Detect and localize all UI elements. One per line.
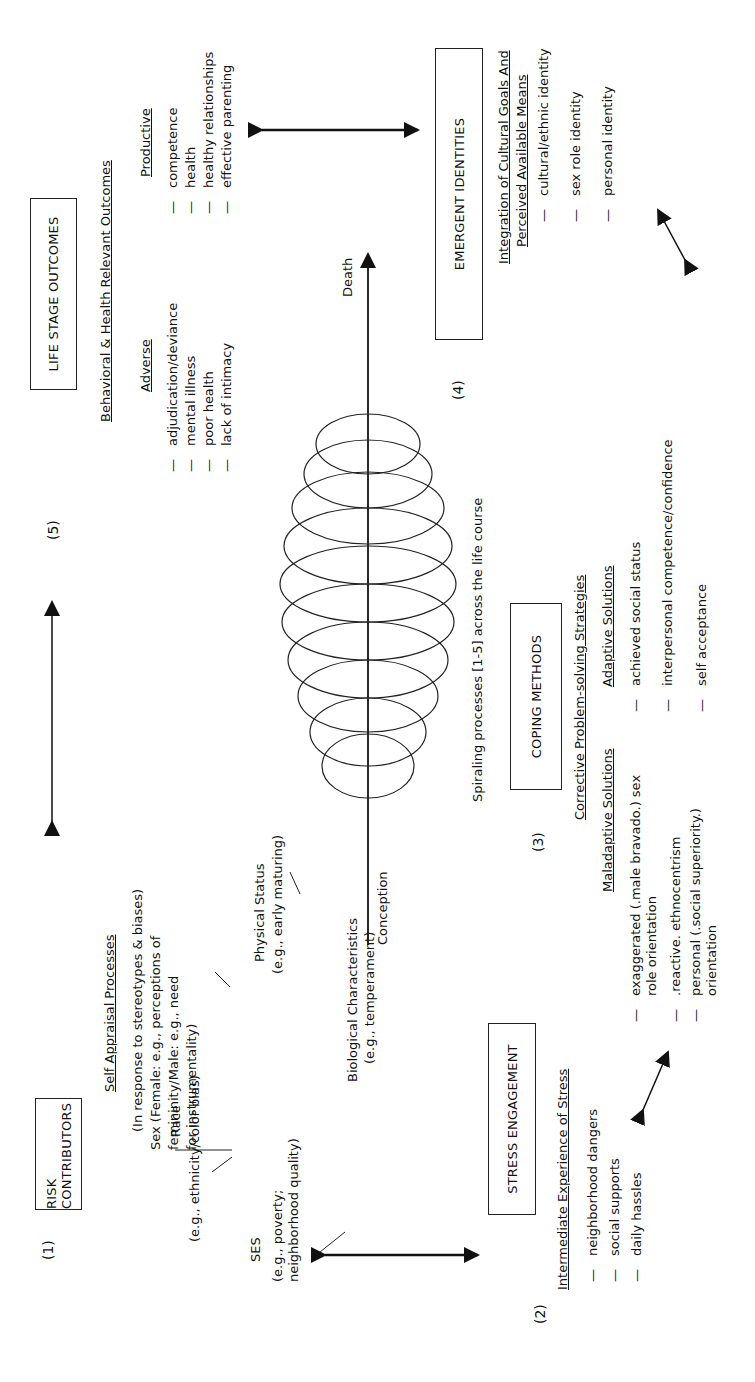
conception-label: Conception xyxy=(375,871,391,945)
identities-heading-1: Integration of Cultural Goals And xyxy=(496,50,512,264)
risk-number: (1) xyxy=(40,1240,56,1260)
identities-item-3: —personal identity xyxy=(600,86,616,222)
maladaptive-heading: Maladaptive Solutions xyxy=(600,749,616,893)
stress-item-3: —daily hassles xyxy=(629,1173,645,1282)
outcomes-title: LIFE STAGE OUTCOMES xyxy=(46,217,61,372)
spiral-caption: Spiraling processes [1-5] across the lif… xyxy=(470,498,486,802)
sex-line-3: for instrumentality) xyxy=(184,1024,200,1150)
adverse-item-1: —adjudication/deviance xyxy=(165,303,181,472)
self-appraisal-subheading: (In response to stereotypes & biases) xyxy=(130,889,146,1132)
ses-label: SES xyxy=(248,1237,264,1262)
adaptive-item-2: —interpersonal competence/confidence xyxy=(660,439,676,712)
risk-title: RISK CONTRIBUTORS xyxy=(44,1099,74,1209)
ses-detail-1: (e.g., poverty; xyxy=(270,1190,286,1282)
identities-heading-2: Perceived Available Means xyxy=(514,75,530,247)
productive-heading: Productive xyxy=(138,108,154,177)
coping-methods-box: COPING METHODS xyxy=(510,603,562,790)
productive-item-1: —competence xyxy=(165,108,181,215)
physical-detail: (e.g., early maturing) xyxy=(270,835,286,974)
biological-detail: (e.g., temperament) xyxy=(362,932,378,1064)
adverse-heading: Adverse xyxy=(138,339,154,392)
adverse-item-2: —mental illness xyxy=(183,356,199,472)
adaptive-item-1: —achieved social status xyxy=(628,542,644,712)
maladaptive-item-2: —.reactive. ethnocentrism xyxy=(668,837,684,1022)
productive-item-2: —health xyxy=(183,147,199,214)
stress-engagement-box: STRESS ENGAGEMENT xyxy=(488,1023,536,1215)
stress-to-coping-arrow xyxy=(643,1052,668,1110)
stress-heading: Intermediate Experience of Stress xyxy=(555,1069,571,1290)
identities-number: (4) xyxy=(450,380,466,400)
outcomes-heading: Behavioral & Health Relevant Outcomes xyxy=(98,160,114,422)
ses-detail-2: neighborhood quality) xyxy=(286,1138,302,1282)
self-appraisal-heading: Self Appraisal Processes xyxy=(102,935,118,1092)
sex-line-2: femininity/Male: e.g., need xyxy=(166,976,182,1150)
life-stage-outcomes-box: LIFE STAGE OUTCOMES xyxy=(30,198,77,390)
identities-title: EMERGENT IDENTITIES xyxy=(452,118,467,270)
coping-heading: Corrective Problem-solving Strategies xyxy=(572,575,588,820)
maladaptive-item-3b: orientation xyxy=(704,925,720,996)
maladaptive-item-1b: role orientation xyxy=(644,896,660,996)
identities-item-1: —cultural/ethnic identity xyxy=(536,48,552,222)
stress-item-2: —social supports xyxy=(607,1158,623,1282)
maladaptive-item-1: —exaggerated (.male bravado.) sex xyxy=(628,775,644,1022)
emergent-identities-box: EMERGENT IDENTITIES xyxy=(435,48,483,340)
adaptive-heading: Adaptive Solutions xyxy=(600,566,616,687)
stress-title: STRESS ENGAGEMENT xyxy=(505,1044,520,1194)
death-label: Death xyxy=(340,258,356,297)
stress-number: (2) xyxy=(532,1304,548,1324)
adverse-item-4: —lack of intimacy xyxy=(219,343,235,472)
productive-item-3: —healthy relationships xyxy=(201,52,217,214)
maladaptive-item-3: —personal (.social superiority.) xyxy=(688,808,704,1022)
risk-contributors-box: RISK CONTRIBUTORS xyxy=(35,1098,82,1210)
coping-number: (3) xyxy=(530,832,546,852)
identities-item-2: —sex role identity xyxy=(568,91,584,222)
coping-to-identities-arrow xyxy=(658,210,685,260)
biological-label: Biological Characteristics xyxy=(345,918,361,1082)
outcomes-number: (5) xyxy=(45,520,61,540)
stress-item-1: —neighborhood dangers xyxy=(585,1109,601,1282)
diagram-canvas: (1) RISK CONTRIBUTORS Self Appraisal Pro… xyxy=(0,0,755,1382)
adaptive-item-3: —self acceptance xyxy=(694,584,710,712)
physical-label: Physical Status xyxy=(252,864,268,962)
adverse-item-3: —poor health xyxy=(201,371,217,472)
coping-title: COPING METHODS xyxy=(529,635,544,758)
sex-line-1: Sex (Female: e.g., perceptions of xyxy=(148,936,164,1150)
productive-item-4: —effective parenting xyxy=(219,65,235,214)
